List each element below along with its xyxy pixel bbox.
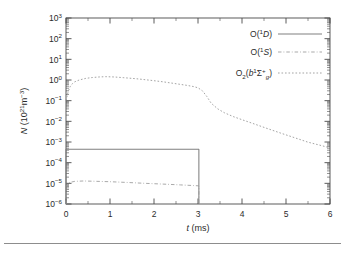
x-tick-label: 5 [284, 209, 289, 219]
x-tick-label: 4 [240, 209, 245, 219]
figure-container: 10−610−510−410−310−210−1100101102103 012… [0, 0, 345, 254]
y-tick-label: 100 [49, 74, 62, 85]
svg-text:t (ms): t (ms) [186, 223, 209, 233]
footer-divider [4, 243, 341, 244]
y-axis-title-unit-open: (10 [19, 112, 29, 125]
series-path [66, 149, 199, 204]
series-path [66, 77, 330, 148]
x-axis-tick-labels: 0123456 [64, 209, 333, 219]
y-tick-label: 102 [49, 32, 62, 43]
x-tick-label: 0 [64, 209, 69, 219]
x-axis-title-var: t [186, 223, 189, 233]
y-axis-tick-labels: 10−610−510−410−310−210−1100101102103 [45, 12, 62, 209]
series-path [66, 181, 199, 204]
svg-text:N (1021m−3): N (1021m−3) [18, 88, 29, 134]
y-tick-label: 10−2 [45, 115, 62, 126]
legend-label: O2(b1Σ+g) [236, 67, 272, 80]
x-axis-title-unit: (ms) [192, 223, 210, 233]
y-tick-label: 10−4 [45, 156, 62, 167]
x-axis-ticks [66, 18, 330, 204]
legend-label: O(1D) [250, 28, 272, 39]
x-tick-label: 1 [108, 209, 113, 219]
y-tick-label: 10−6 [45, 198, 62, 209]
x-axis-title: t (ms) [186, 223, 209, 233]
y-axis-ticks [66, 18, 330, 204]
x-tick-label: 2 [152, 209, 157, 219]
data-series-group [66, 77, 330, 204]
log-line-chart: 10−610−510−410−310−210−1100101102103 012… [0, 0, 345, 254]
y-axis-title: N (1021m−3) [18, 88, 29, 134]
y-tick-label: 10−1 [45, 94, 62, 105]
x-tick-label: 3 [196, 209, 201, 219]
legend-label: O(1S) [251, 46, 273, 57]
y-axis-title-unit-close: ) [19, 88, 29, 91]
y-tick-label: 10−3 [45, 136, 62, 147]
chart-legend: O(1D)O(1S)O2(b1Σ+g) [236, 28, 322, 80]
plot-frame [66, 18, 330, 204]
x-tick-label: 6 [328, 209, 333, 219]
plot-area-border [66, 18, 330, 204]
y-axis-title-var: N [19, 127, 29, 134]
y-tick-label: 101 [49, 53, 62, 64]
y-axis-title-unit-m: m [19, 98, 29, 106]
y-tick-label: 10−5 [45, 177, 62, 188]
y-tick-label: 103 [49, 12, 62, 23]
